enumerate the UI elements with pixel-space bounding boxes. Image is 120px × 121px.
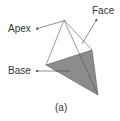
caption-label: (a) xyxy=(55,103,67,113)
face-pointer xyxy=(82,19,97,44)
edge-apex-left xyxy=(46,20,64,65)
apex-pointer xyxy=(36,21,63,29)
face-label: Face xyxy=(92,6,114,16)
base-face xyxy=(46,50,98,95)
edge-apex-right xyxy=(64,20,92,50)
apex-label: Apex xyxy=(8,24,31,34)
base-label: Base xyxy=(8,66,31,76)
